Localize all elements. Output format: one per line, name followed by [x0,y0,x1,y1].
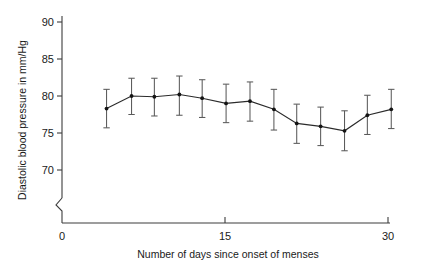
y-tick-label: 80 [42,90,54,102]
y-zero-label: 0 [59,230,65,242]
y-tick-label: 90 [42,16,54,28]
y-tick-label: 70 [42,164,54,176]
y-tick-label: 75 [42,127,54,139]
y-axis-label: Diastolic blood pressure in mm/Hg [16,40,28,200]
x-tick-label: 15 [219,230,231,242]
data-point-marker [248,99,252,103]
data-point-marker [130,94,134,98]
x-tick-label: 30 [382,230,394,242]
data-point-marker [272,107,276,111]
data-point-marker [343,129,347,133]
data-point-marker [105,107,109,111]
data-point-marker [295,121,299,125]
y-tick-label: 85 [42,53,54,65]
data-point-marker [177,93,181,97]
x-axis-label: Number of days since onset of menses [137,248,319,260]
data-point-marker [200,96,204,100]
data-point-marker [389,107,393,111]
data-point-marker [319,124,323,128]
data-point-marker [224,102,228,106]
data-point-marker [365,113,369,117]
chart-figure: 707580859001530 Diastolic blood pressure… [0,0,434,273]
data-point-marker [152,95,156,99]
chart-background [0,0,434,273]
